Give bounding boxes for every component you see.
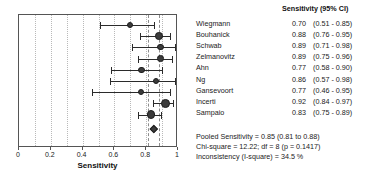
ci-cap-upper <box>173 100 174 107</box>
ci-cap-lower <box>110 78 111 85</box>
chi-square-text: Chi-square = 12.22; df = 8 (p = 0.1417) <box>196 143 320 151</box>
study-name-label: Incerti <box>196 98 216 106</box>
inconsistency-text: Inconsistency (I-square) = 34.5 % <box>196 153 303 161</box>
confidence-interval-line <box>138 59 171 60</box>
confidence-interval-value: (0.84 - 0.97) <box>313 98 352 106</box>
point-estimate-marker <box>157 55 164 62</box>
pooled-estimate-diamond <box>150 125 158 133</box>
confidence-interval-value: (0.51 - 0.85) <box>313 20 352 28</box>
study-name-label: Bouhanick <box>196 31 230 39</box>
confidence-interval-value: (0.75 - 0.96) <box>313 53 352 61</box>
sensitivity-estimate-value: 0.83 <box>282 109 306 117</box>
sensitivity-estimate-value: 0.86 <box>282 76 306 84</box>
confidence-interval-value: (0.76 - 0.95) <box>313 31 352 39</box>
sensitivity-estimate-value: 0.92 <box>282 98 306 106</box>
confidence-interval-value: (0.57 - 0.98) <box>313 76 352 84</box>
axis-tick <box>50 147 51 150</box>
sensitivity-estimate-value: 0.89 <box>282 53 306 61</box>
study-name-label: Zelmanovitz <box>196 53 235 61</box>
ci-cap-lower <box>140 33 141 40</box>
sensitivity-estimate-value: 0.89 <box>282 42 306 50</box>
study-name-label: Schwab <box>196 42 222 50</box>
sensitivity-estimate-value: 0.77 <box>282 64 306 72</box>
table-column-header: Sensitivity (95% CI) <box>282 5 348 13</box>
study-name-label: Ahn <box>196 64 209 72</box>
axis-tick-label: 0.2 <box>36 151 64 159</box>
axis-tick <box>113 147 114 150</box>
study-name-label: Gansevoort <box>196 87 233 95</box>
point-estimate-marker <box>155 32 163 40</box>
sensitivity-estimate-value: 0.77 <box>282 87 306 95</box>
confidence-interval-value: (0.75 - 0.89) <box>313 109 352 117</box>
ci-cap-lower <box>153 100 154 107</box>
axis-tick-label: 0.4 <box>68 151 96 159</box>
x-axis-title: Sensitivity <box>18 161 177 170</box>
study-name-label: Wiegmann <box>196 20 230 28</box>
pooled-row <box>19 123 176 136</box>
confidence-interval-value: (0.58 - 0.90) <box>313 64 352 72</box>
ci-cap-upper <box>170 89 171 96</box>
point-estimate-marker <box>161 99 170 108</box>
sensitivity-estimate-value: 0.88 <box>282 31 306 39</box>
point-estimate-marker <box>153 78 159 84</box>
ci-cap-upper <box>175 78 176 85</box>
ci-cap-lower <box>100 22 101 29</box>
ci-cap-lower <box>92 89 93 96</box>
point-estimate-marker <box>138 89 144 95</box>
axis-tick-label: 0.8 <box>131 151 159 159</box>
confidence-interval-line <box>132 47 175 48</box>
study-name-label: Ng <box>196 76 205 84</box>
confidence-interval-line <box>92 92 170 93</box>
ci-cap-upper <box>172 56 173 63</box>
axis-tick-label: 0 <box>4 151 32 159</box>
sensitivity-estimate-value: 0.70 <box>282 20 306 28</box>
point-estimate-marker <box>138 67 144 73</box>
ci-cap-upper <box>170 33 171 40</box>
ci-cap-lower <box>132 44 133 51</box>
plot-area <box>18 14 177 147</box>
confidence-interval-value: (0.71 - 0.98) <box>313 42 352 50</box>
axis-tick-label: 0.6 <box>99 151 127 159</box>
axis-tick-label: 1 <box>163 151 191 159</box>
plot-inner <box>19 15 176 146</box>
ci-cap-upper <box>161 112 162 119</box>
ci-cap-lower <box>138 56 139 63</box>
axis-tick <box>145 147 146 150</box>
ci-cap-lower <box>111 67 112 74</box>
confidence-interval-value: (0.46 - 0.95) <box>313 87 352 95</box>
axis-tick <box>18 147 19 150</box>
axis-tick <box>177 147 178 150</box>
ci-cap-upper <box>175 44 176 51</box>
pooled-sensitivity-text: Pooled Sensitivity = 0.85 (0.81 to 0.88) <box>196 133 320 141</box>
ci-cap-upper <box>162 67 163 74</box>
axis-tick <box>82 147 83 150</box>
point-estimate-marker <box>147 110 155 118</box>
ci-cap-lower <box>138 112 139 119</box>
forest-plot: 00.20.40.60.81 Sensitivity Sensitivity (… <box>0 0 382 180</box>
study-name-label: Sampaio <box>196 109 224 117</box>
point-estimate-marker <box>127 22 133 28</box>
point-estimate-marker <box>157 44 163 50</box>
forest-row <box>19 109 176 122</box>
confidence-interval-line <box>111 70 162 71</box>
confidence-interval-line <box>110 81 175 82</box>
ci-cap-upper <box>154 22 155 29</box>
